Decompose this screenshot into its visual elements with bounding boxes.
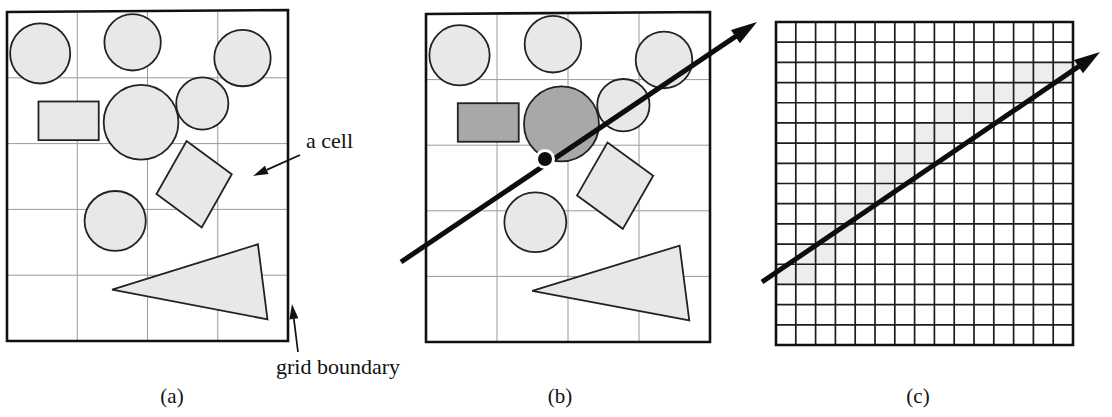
annotation-label-a-cell: a cell (306, 128, 353, 153)
annotation-label-grid-boundary: grid boundary (276, 354, 400, 379)
shaded-cell (915, 143, 935, 163)
annotation-leader-line (294, 319, 298, 352)
annotation-grid-boundary: grid boundary (276, 304, 400, 379)
shaded-cell (816, 244, 836, 264)
panel-b-ray-head (731, 22, 757, 43)
shaded-cell (1014, 62, 1034, 82)
scene-shape-ellipse-low (85, 191, 146, 251)
grid-acceleration-figure: a cellgrid boundary (a)(b)(c) (0, 0, 1112, 417)
shaded-cell (1033, 62, 1053, 82)
scene-shape-circle-top (104, 14, 160, 70)
scene-shape-circle-top (525, 16, 582, 73)
panel-caption-c: (c) (906, 384, 929, 408)
shaded-cell (875, 163, 895, 183)
shaded-cell (934, 103, 954, 123)
shaded-cell (915, 123, 935, 143)
shaded-cell (974, 103, 994, 123)
panel-caption-b: (b) (548, 384, 573, 408)
scene-shape-big-circle (524, 86, 599, 161)
shaded-cell (994, 83, 1014, 103)
scene-shape-rect (458, 103, 519, 142)
captions-layer: (a)(b)(c) (160, 384, 929, 408)
shaded-cell (895, 143, 915, 163)
panels-layer (7, 10, 1100, 345)
shaded-cell (934, 123, 954, 143)
scene-shape-circle-r (176, 77, 228, 129)
panel-a (7, 10, 288, 341)
scene-shape-circle-tr (214, 30, 270, 86)
panel-c (762, 22, 1100, 345)
annotation-arrowhead-icon (289, 304, 298, 319)
shaded-cell (796, 264, 816, 284)
shaded-cell (954, 103, 974, 123)
scene-shape-ellipse-low (504, 192, 566, 252)
scene-shape-rect (38, 101, 98, 140)
scene-shape-circle-tr (636, 32, 693, 89)
shaded-cell (855, 184, 875, 204)
hit-point-marker (538, 152, 552, 166)
scene-shape-big-circle (104, 85, 179, 160)
panel-b (401, 12, 757, 342)
figure-root: a cellgrid boundary (a)(b)(c) (0, 0, 1112, 417)
scene-shape-circle-tl (10, 23, 70, 83)
scene-shape-circle-tl (429, 25, 489, 85)
shaded-cell (974, 83, 994, 103)
panel-caption-a: (a) (160, 384, 183, 408)
